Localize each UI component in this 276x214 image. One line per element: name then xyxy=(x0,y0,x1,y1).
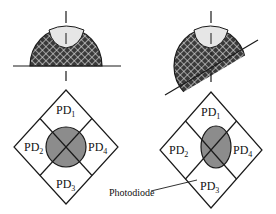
photodiode-callout: Photodiode xyxy=(109,180,197,198)
left-figure: PD1 PD2 PD3 PD4 xyxy=(13,11,121,204)
left-droplet xyxy=(13,11,121,81)
photodiode-label: Photodiode xyxy=(109,187,155,198)
quadrant-photodiode-diagram: PD1 PD2 PD3 PD4 PD1 PD2 PD3 PD4 xyxy=(0,0,276,214)
right-droplet xyxy=(165,11,258,104)
leader-line xyxy=(151,180,197,191)
right-figure: PD1 PD2 PD3 PD4 Photodiode xyxy=(109,11,262,208)
left-quad-detector: PD1 PD2 PD3 PD4 xyxy=(14,90,118,204)
right-quad-detector: PD1 PD2 PD3 PD4 xyxy=(160,92,262,208)
